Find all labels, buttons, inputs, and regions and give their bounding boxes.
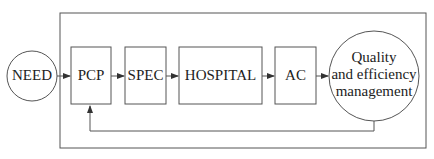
- quality-label-line1: Quality: [329, 49, 419, 66]
- ac-label: AC: [275, 67, 316, 84]
- need-label: NEED: [7, 67, 57, 84]
- quality-label-line2: and efficiency: [329, 66, 419, 83]
- quality-label-line3: management: [329, 83, 419, 100]
- spec-label: SPEC: [125, 67, 166, 84]
- feedback-arrow: [90, 106, 374, 131]
- quality-label: Quality and efficiency management: [329, 49, 419, 100]
- hospital-label: HOSPITAL: [179, 67, 262, 84]
- pcp-label: PCP: [71, 67, 111, 84]
